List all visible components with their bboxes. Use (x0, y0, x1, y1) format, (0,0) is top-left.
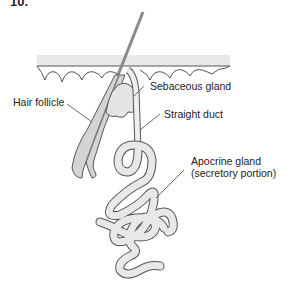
leader-straight-duct (140, 114, 160, 130)
leader-hair-follicle (67, 104, 92, 122)
apocrine-secretory-coil (100, 145, 173, 274)
leader-apocrine-gland (156, 170, 184, 198)
label-hair-follicle: Hair follicle (13, 96, 64, 108)
label-straight-duct: Straight duct (164, 108, 223, 120)
label-apocrine-secretory-portion: (secretory portion) (191, 167, 276, 179)
label-sebaceous-gland: Sebaceous gland (150, 80, 231, 92)
apocrine-gland-diagram (0, 0, 290, 288)
label-apocrine-gland: Apocrine gland (191, 155, 261, 167)
